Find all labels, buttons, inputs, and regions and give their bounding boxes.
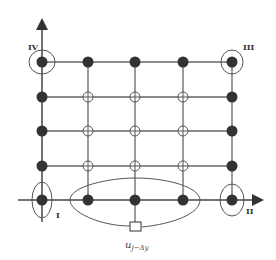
label-iii: III xyxy=(243,42,254,52)
label-ii: II xyxy=(246,206,254,216)
ghost-node-marker xyxy=(130,222,141,231)
stencil-diagram: IV III I II uj−Δy xyxy=(0,0,276,260)
label-i: I xyxy=(56,210,60,220)
label-iv: IV xyxy=(28,42,39,52)
marker-label: uj−Δy xyxy=(125,239,150,252)
